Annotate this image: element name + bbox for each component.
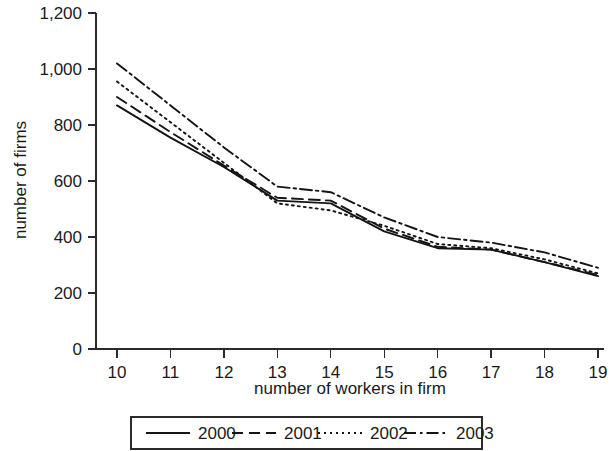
chart-canvas: 02004006008001,0001,200 number of firms … — [0, 0, 612, 451]
line-chart: 02004006008001,0001,200 number of firms … — [0, 0, 612, 451]
y-tick-label: 1,200 — [39, 4, 82, 23]
x-axis: 10111213141516171819 number of workers i… — [96, 349, 607, 398]
series-line-2003 — [117, 63, 598, 267]
y-tick-label: 1,000 — [39, 60, 82, 79]
x-tick-label: 17 — [482, 363, 501, 382]
x-tick-label: 11 — [162, 363, 180, 382]
x-tick-label: 12 — [214, 363, 233, 382]
x-axis-title: number of workers in firm — [254, 379, 446, 398]
x-tick-label: 18 — [535, 363, 554, 382]
y-tick-label: 200 — [54, 284, 82, 303]
y-axis: 02004006008001,0001,200 number of firms — [11, 4, 96, 359]
legend-label-2003: 2003 — [456, 424, 494, 443]
y-tick-label: 0 — [73, 340, 82, 359]
series-line-2000 — [117, 105, 598, 276]
y-axis-ticks — [88, 13, 96, 349]
data-series-group — [117, 63, 598, 276]
x-axis-ticks — [117, 349, 598, 358]
legend-label-2002: 2002 — [370, 424, 408, 443]
y-axis-title: number of firms — [11, 121, 30, 239]
legend-label-2001: 2001 — [284, 424, 322, 443]
x-tick-label: 10 — [108, 363, 127, 382]
y-tick-label: 600 — [54, 172, 82, 191]
legend-label-2000: 2000 — [198, 424, 236, 443]
chart-legend: 2000200120022003 — [131, 417, 494, 449]
x-tick-label: 19 — [589, 363, 608, 382]
y-axis-tick-labels: 02004006008001,0001,200 — [39, 4, 82, 359]
series-line-2002 — [117, 82, 598, 274]
y-tick-label: 400 — [54, 228, 82, 247]
y-tick-label: 800 — [54, 116, 82, 135]
